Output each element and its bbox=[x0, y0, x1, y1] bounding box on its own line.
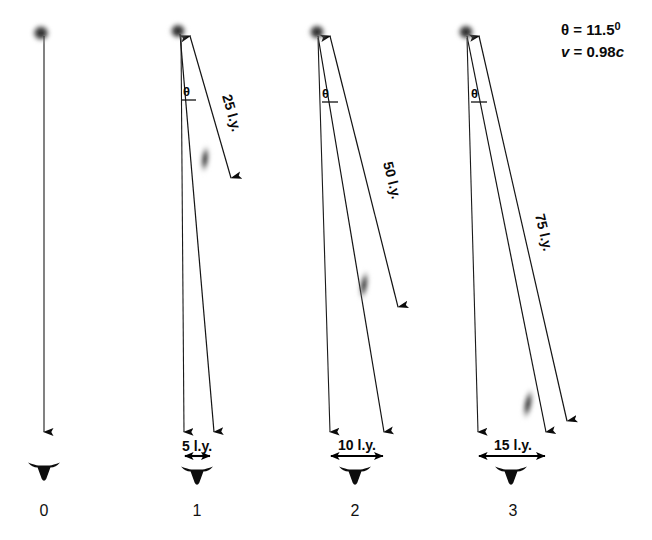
observer-antenna-icon bbox=[28, 463, 60, 481]
angle-label-2: θ bbox=[322, 86, 329, 101]
moving-knot-blob-1 bbox=[198, 143, 211, 175]
angle-label-1: θ bbox=[183, 84, 190, 99]
panel-2: θ 50 l.y. 10 l.y. 2 bbox=[306, 22, 405, 520]
panel-1: θ 25 l.y. 5 l.y. 1 bbox=[167, 21, 245, 520]
distance-label-2: 50 l.y. bbox=[380, 160, 405, 201]
observer-antenna-icon bbox=[495, 467, 527, 485]
baseline-label-3: 15 l.y. bbox=[494, 437, 532, 453]
quasar-core-blob bbox=[455, 22, 477, 43]
velocity-equation: = 0.98 bbox=[569, 43, 615, 60]
velocity-parameter: v = 0.98c bbox=[561, 43, 625, 60]
panel-number-0: 0 bbox=[40, 502, 49, 519]
moving-knot-blob-3 bbox=[519, 386, 536, 422]
speed-of-light-symbol: c bbox=[616, 43, 625, 60]
distance-arrow-3 bbox=[479, 36, 567, 421]
baseline-label-1: 5 l.y. bbox=[182, 438, 212, 454]
distance-label-1: 25 l.y. bbox=[219, 92, 245, 133]
observer-antenna-icon bbox=[339, 467, 371, 485]
baseline-label-2: 10 l.y. bbox=[338, 437, 376, 453]
panel-number-2: 2 bbox=[351, 502, 360, 519]
moving-knot-blob-2 bbox=[356, 268, 371, 302]
distance-label-3: 75 l.y. bbox=[532, 212, 556, 253]
parameter-annotation: θ = 11.50 v = 0.98c bbox=[561, 20, 625, 60]
quasar-core-blob bbox=[306, 22, 328, 43]
diagram-canvas: 0 θ 25 l.y. 5 l.y. 1 θ bbox=[0, 0, 652, 540]
knot-trajectory-3 bbox=[467, 36, 546, 432]
theta-parameter-text: θ = 11.5 bbox=[561, 21, 615, 38]
theta-parameter: θ = 11.50 bbox=[561, 20, 621, 38]
quasar-core-blob bbox=[167, 21, 189, 42]
observer-antenna-icon bbox=[181, 467, 213, 485]
angle-label-3: θ bbox=[471, 86, 478, 101]
panel-0: 0 bbox=[28, 22, 60, 519]
panel-number-3: 3 bbox=[509, 502, 518, 519]
degree-symbol: 0 bbox=[615, 20, 621, 32]
superluminal-motion-figure: 0 θ 25 l.y. 5 l.y. 1 θ bbox=[0, 0, 652, 540]
panel-3: θ 75 l.y. 15 l.y. 3 bbox=[455, 22, 567, 520]
panel-number-1: 1 bbox=[193, 502, 202, 519]
quasar-core-blob bbox=[30, 22, 53, 44]
